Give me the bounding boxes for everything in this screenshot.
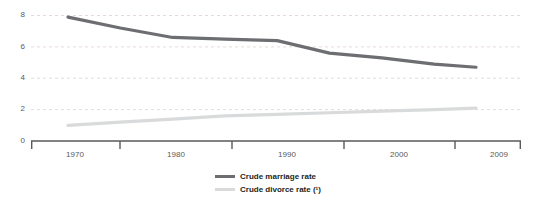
legend-item-crude-divorce-rate: Crude divorce rate (¹) [215,184,415,195]
x-axis [31,141,521,149]
x-tick-label-1990: 1990 [257,150,317,160]
y-tick-label-6: 6 [5,42,25,52]
crude-marriage-divorce-rate-chart: 8 6 4 2 0 1970 1980 1990 2000 2009 Crude… [0,0,535,204]
x-tick-label-2009: 2009 [469,150,529,160]
y-tick-label-4: 4 [5,73,25,83]
x-tick-label-2000: 2000 [369,150,429,160]
y-tick-label-2: 2 [5,104,25,114]
x-tick-label-1970: 1970 [45,150,105,160]
y-tick-label-8: 8 [5,10,25,20]
legend-item-crude-marriage-rate: Crude marriage rate [215,171,415,182]
series-line-crude-divorce-rate [68,108,476,125]
series-line-crude-marriage-rate [68,17,476,67]
legend-swatch-marriage-icon [215,175,235,178]
y-tick-label-0: 0 [5,136,25,146]
chart-legend: Crude marriage rate Crude divorce rate (… [215,171,415,197]
legend-label-crude-marriage-rate: Crude marriage rate [240,172,316,182]
x-tick-label-1980: 1980 [146,150,206,160]
legend-label-crude-divorce-rate: Crude divorce rate (¹) [240,185,321,195]
legend-swatch-divorce-icon [215,188,235,191]
gridlines [31,16,521,110]
